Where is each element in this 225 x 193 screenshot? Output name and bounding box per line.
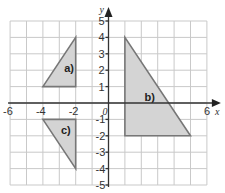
x-tick-label: -4	[36, 105, 46, 117]
y-tick-label: -5	[96, 179, 106, 191]
y-tick-label: 2	[99, 64, 105, 76]
y-tick-label: 4	[99, 31, 105, 43]
x-tick-label: -6	[3, 105, 13, 117]
y-tick-label: -4	[96, 163, 106, 175]
x-axis-label: x	[214, 106, 220, 117]
x-tick-label: -2	[69, 105, 79, 117]
axes: xy	[8, 4, 221, 187]
y-tick-label: 5	[99, 15, 105, 27]
coordinate-grid: a)b)c) xy -6-4-20654321-1-2-3-4-5	[0, 0, 225, 193]
y-tick-label: 3	[99, 48, 105, 60]
y-tick-label: -2	[96, 130, 106, 142]
y-tick-label: 1	[99, 81, 105, 93]
y-tick-label: -1	[96, 113, 106, 125]
y-axis-arrow-icon	[105, 7, 113, 17]
triangle-label: c)	[61, 124, 71, 136]
y-tick-label: -3	[96, 146, 106, 158]
x-tick-label: 6	[204, 105, 210, 117]
y-axis-label: y	[99, 4, 105, 15]
triangle-label: a)	[64, 62, 74, 74]
triangle-label: b)	[145, 91, 156, 103]
